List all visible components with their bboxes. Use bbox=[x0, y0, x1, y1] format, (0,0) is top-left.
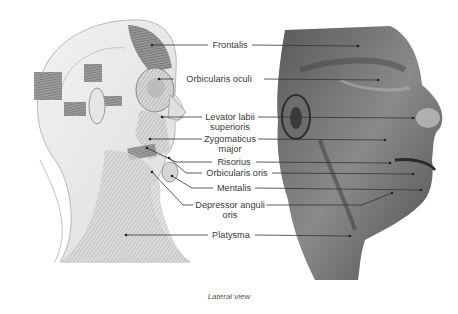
figure-caption: Lateral view bbox=[208, 292, 251, 301]
illustrated-head bbox=[34, 20, 190, 262]
label-frontalis: Frontalis bbox=[210, 40, 249, 50]
label-depressor-anguli-oris: Depressor angulioris bbox=[193, 200, 266, 220]
label-risorius: Risorius bbox=[215, 157, 252, 167]
label-platysma: Platysma bbox=[210, 230, 252, 240]
anatomy-figure: Frontalis Orbicularis oculi Levator labi… bbox=[0, 0, 458, 314]
label-mentalis: Mentalis bbox=[215, 183, 253, 193]
label-orbicularis-oculi: Orbicularis oculi bbox=[184, 74, 253, 84]
label-levator-labii-superioris: Levator labiisuperioris bbox=[203, 112, 257, 132]
label-zygomaticus-major: Zygomaticusmajor bbox=[202, 134, 258, 154]
cadaver-face-photo bbox=[277, 26, 442, 280]
label-orbicularis-oris: Orbicularis oris bbox=[204, 168, 269, 178]
